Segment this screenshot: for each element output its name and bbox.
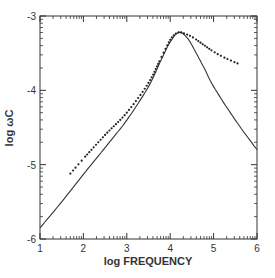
data-point: [158, 60, 160, 62]
data-point: [88, 151, 90, 153]
data-point: [72, 169, 74, 171]
data-point: [69, 172, 71, 174]
data-point: [152, 73, 154, 75]
chart: 123456 -3-4-5-6 log FREQUENCY log ωC: [0, 0, 275, 278]
data-point: [206, 46, 208, 48]
data-point: [199, 42, 201, 44]
data-point: [153, 71, 155, 73]
y-tick-label: -5: [27, 160, 36, 171]
x-tick-label: 3: [124, 243, 130, 254]
data-point: [104, 134, 106, 136]
data-point: [217, 53, 219, 55]
data-point: [81, 160, 83, 162]
data-point: [111, 127, 113, 129]
data-point: [180, 31, 182, 33]
data-point: [142, 91, 144, 93]
y-tick-label: -6: [27, 234, 36, 245]
data-point: [135, 100, 137, 102]
data-point: [210, 49, 212, 51]
data-point: [100, 139, 102, 141]
data-point: [146, 85, 148, 87]
data-point: [163, 52, 165, 54]
data-point: [173, 34, 175, 36]
data-point: [171, 36, 173, 38]
data-point: [169, 39, 171, 41]
data-point: [117, 121, 119, 123]
data-point: [183, 32, 185, 34]
data-point: [108, 129, 110, 131]
data-point: [90, 149, 92, 151]
data-point: [156, 65, 158, 67]
data-point: [202, 43, 204, 45]
data-point: [175, 33, 177, 35]
data-point: [226, 58, 228, 60]
plot-series: [40, 31, 257, 227]
data-point: [74, 167, 76, 169]
plot-frame: [40, 16, 257, 239]
data-point: [139, 94, 141, 96]
data-point: [77, 163, 79, 165]
data-point: [168, 41, 170, 43]
y-axis: -3-4-5-6: [27, 11, 257, 245]
data-point: [115, 123, 117, 125]
data-point: [151, 76, 153, 78]
data-point: [157, 63, 159, 65]
x-tick-label: 6: [254, 243, 260, 254]
data-point: [160, 56, 162, 58]
data-point: [106, 132, 108, 134]
data-point: [86, 153, 88, 155]
data-point: [132, 103, 134, 105]
data-point: [192, 36, 194, 38]
data-point: [137, 97, 139, 99]
data-point: [126, 112, 128, 114]
data-point: [197, 40, 199, 42]
data-point: [223, 57, 225, 59]
data-point: [113, 125, 115, 127]
data-point: [124, 114, 126, 116]
data-point: [130, 106, 132, 108]
y-tick-label: -4: [27, 85, 36, 96]
data-point: [164, 48, 166, 50]
data-point: [147, 82, 149, 84]
x-tick-label: 2: [81, 243, 87, 254]
data-point: [177, 31, 179, 33]
x-tick-label: 1: [37, 243, 43, 254]
y-tick-label: -3: [27, 11, 36, 22]
data-point: [204, 45, 206, 47]
data-point: [208, 48, 210, 50]
data-point: [155, 68, 157, 70]
x-axis: 123456: [37, 16, 260, 254]
data-point: [95, 144, 97, 146]
data-point: [220, 55, 222, 57]
data-point: [195, 38, 197, 40]
y-axis-title: log ωC: [3, 110, 15, 147]
data-point: [166, 44, 168, 46]
data-point: [233, 61, 235, 63]
data-point: [128, 109, 130, 111]
data-point: [189, 35, 191, 37]
data-point: [121, 116, 123, 118]
data-point: [84, 156, 86, 158]
data-point: [230, 59, 232, 61]
data-point: [93, 146, 95, 148]
theory-curve: [40, 32, 257, 228]
data-point: [186, 33, 188, 35]
data-point: [119, 119, 121, 121]
data-point: [97, 141, 99, 143]
x-tick-label: 4: [167, 243, 173, 254]
data-point: [214, 51, 216, 53]
data-point: [236, 62, 238, 64]
data-point: [149, 79, 151, 81]
x-axis-title: log FREQUENCY: [104, 255, 193, 267]
x-tick-label: 5: [211, 243, 217, 254]
data-point: [102, 136, 104, 138]
data-point: [144, 88, 146, 90]
